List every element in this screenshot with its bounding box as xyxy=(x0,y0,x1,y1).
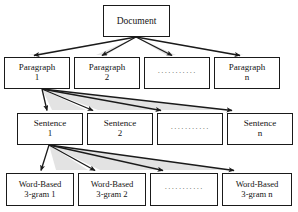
node-paragraph-2-line2: 2 xyxy=(105,73,110,83)
cropped-caption-strip xyxy=(0,0,298,4)
node-sentence-ellipsis-line1: ··········· xyxy=(170,125,209,134)
node-ngram-n[interactable]: Word-Based 3-gram n xyxy=(222,173,292,206)
node-sentence-ellipsis: ··········· xyxy=(157,113,223,145)
node-sentence-1[interactable]: Sentence 1 xyxy=(17,113,83,145)
node-ngram-1-line2: 3-gram 1 xyxy=(24,190,55,199)
edges-document-to-paragraphs xyxy=(28,37,244,56)
node-paragraph-n-line2: n xyxy=(245,73,250,83)
node-ngram-2-line2: 3-gram 2 xyxy=(96,190,127,199)
node-ngram-ellipsis-line1: ··········· xyxy=(164,185,203,194)
node-sentence-n[interactable]: Sentence n xyxy=(227,113,293,145)
node-paragraph-1[interactable]: Paragraph 1 xyxy=(4,57,70,89)
node-paragraph-1-line2: 1 xyxy=(35,73,40,83)
node-paragraph-ellipsis: ··········· xyxy=(144,57,210,89)
node-ngram-ellipsis: ··········· xyxy=(150,173,218,206)
node-paragraph-n[interactable]: Paragraph n xyxy=(214,57,280,89)
edges-paragraph1-to-sentences xyxy=(42,89,232,111)
node-document-line1: Document xyxy=(117,16,157,26)
node-ngram-1[interactable]: Word-Based 3-gram 1 xyxy=(6,173,74,206)
node-paragraph-ellipsis-line1: ··········· xyxy=(157,69,196,78)
node-sentence-2[interactable]: Sentence 2 xyxy=(87,113,153,145)
node-sentence-2-line2: 2 xyxy=(118,129,123,139)
node-document[interactable]: Document xyxy=(103,5,170,37)
node-sentence-n-line2: n xyxy=(258,129,263,139)
edges-sentence1-to-ngrams xyxy=(41,145,234,171)
node-sentence-1-line2: 1 xyxy=(48,129,53,139)
hierarchy-diagram: Document Paragraph 1 Paragraph 2 ·······… xyxy=(0,0,298,212)
node-ngram-n-line2: 3-gram n xyxy=(241,190,272,199)
node-ngram-2[interactable]: Word-Based 3-gram 2 xyxy=(78,173,146,206)
node-paragraph-2[interactable]: Paragraph 2 xyxy=(74,57,140,89)
